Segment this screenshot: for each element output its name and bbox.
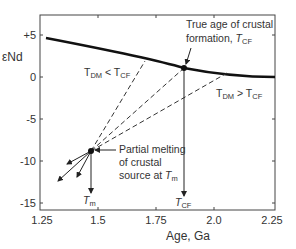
tdm-greater-than-tcf-label: TDM > TCF (216, 87, 263, 101)
x-tick-label: 1.75 (145, 214, 166, 226)
x-axis-label: Age, Ga (166, 229, 210, 243)
y-tick-label: 0 (30, 71, 36, 83)
true-age-label-line2: formation, TCF (186, 32, 252, 46)
tcf-label: TCF (175, 196, 192, 210)
y-axis-label: εNd (2, 50, 23, 64)
tm-label: Tm (83, 194, 96, 208)
tdm-less-than-tcf-label: TDM < TCF (84, 66, 131, 80)
tcf-point (181, 65, 187, 71)
source-melting-point (88, 148, 94, 154)
y-tick-label: -10 (20, 155, 36, 167)
y-tick-label: +5 (23, 29, 36, 41)
true-age-label-line1: True age of crustal (186, 18, 273, 30)
partial-melting-label-line2: of crustal (119, 156, 162, 168)
x-tick-label: 1.5 (90, 214, 105, 226)
x-tick-label: 2.25 (261, 214, 282, 226)
nd-evolution-diagram: +5 0 -5 -10 -15 1.25 1.5 1.75 2.0 2.25 ε… (0, 0, 296, 249)
y-tick-label: -5 (26, 113, 36, 125)
x-tick-label: 1.25 (31, 214, 52, 226)
partial-melting-label-line3: source at Tm (119, 169, 178, 183)
x-tick-label: 2.0 (206, 214, 221, 226)
partial-melting-label-line1: Partial melting (119, 143, 186, 155)
y-tick-label: -15 (20, 197, 36, 209)
